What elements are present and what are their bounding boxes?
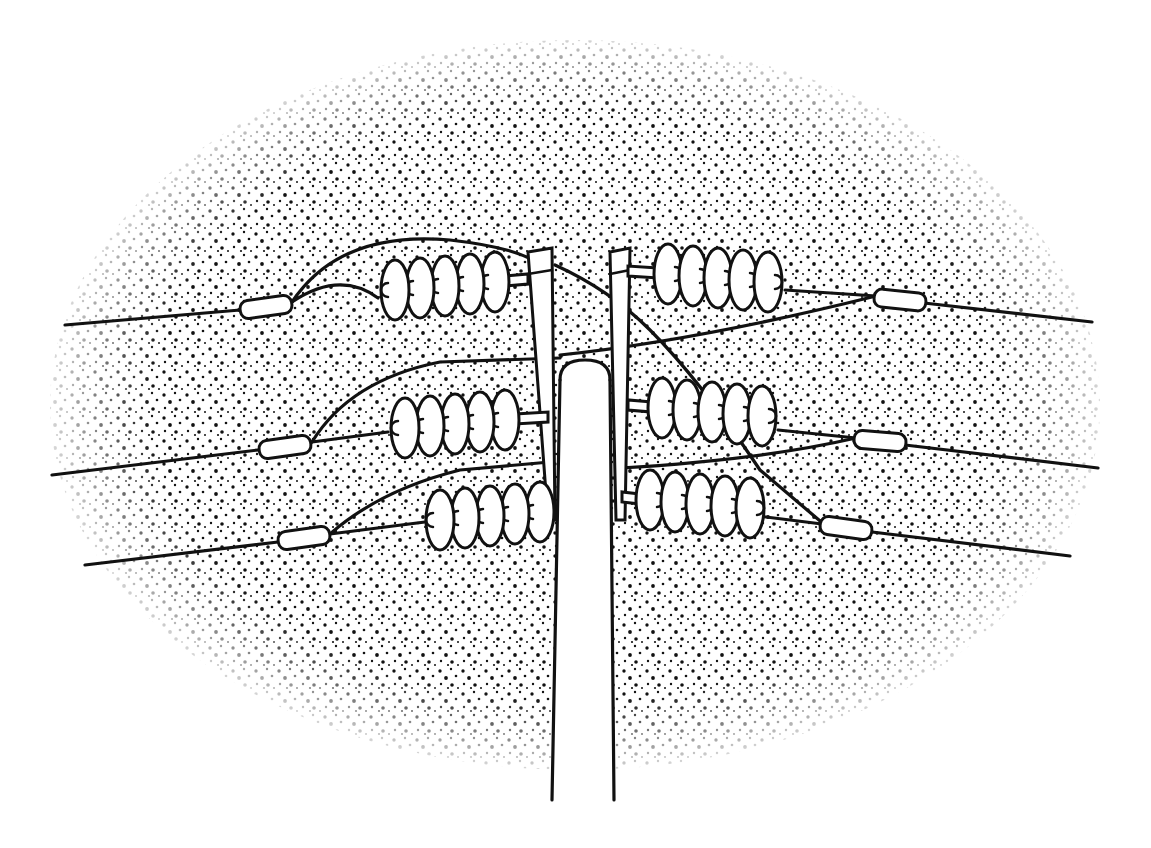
insulator-disc xyxy=(736,478,764,538)
utility-pole-illustration xyxy=(0,0,1151,848)
insulator-string-lower-right xyxy=(622,470,764,538)
insulator-disc xyxy=(748,386,776,446)
insulator-disc xyxy=(381,260,409,320)
insulator-string-lower-left xyxy=(426,482,554,550)
insulator-disc xyxy=(754,252,782,312)
sleeve-middle-right xyxy=(853,430,906,452)
insulator-disc xyxy=(391,398,419,458)
sleeve-upper-right xyxy=(873,288,927,311)
insulator-disc xyxy=(426,490,454,550)
